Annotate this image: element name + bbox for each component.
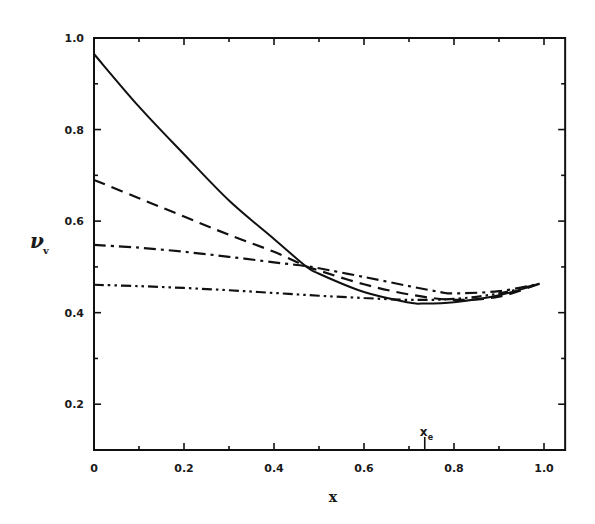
y-tick-label: 0.4: [65, 307, 85, 320]
plot-frame: [94, 38, 565, 450]
y-tick-label: 0.8: [65, 124, 85, 137]
series-solid: [94, 54, 540, 304]
y-tick-labels: 0.20.40.60.81.0: [65, 32, 85, 411]
y-tick-label: 1.0: [65, 32, 85, 45]
xe-label: x: [420, 425, 428, 439]
x-tick-label: 0.8: [444, 462, 464, 475]
line-chart: 00.20.40.60.81.0 0.20.40.60.81.0 xe x ν …: [0, 0, 595, 524]
x-axis-label: x: [329, 489, 338, 505]
xe-subscript: e: [428, 433, 434, 442]
y-tick-label: 0.6: [65, 215, 85, 228]
y-tick-label: 0.2: [65, 398, 85, 411]
data-series: [94, 54, 540, 304]
series-dash-dot: [94, 245, 540, 294]
y-axis-label-subscript: v: [42, 245, 50, 256]
series-dashed: [94, 180, 540, 300]
y-axis-label: ν v: [30, 229, 50, 256]
x-tick-labels: 00.20.40.60.81.0: [90, 462, 554, 475]
x-tick-label: 0.6: [354, 462, 374, 475]
plot-border: [94, 38, 565, 450]
annotations: xe: [420, 425, 434, 450]
x-tick-label: 0.4: [264, 462, 284, 475]
x-tick-label: 0: [90, 462, 98, 475]
x-tick-label: 1.0: [534, 462, 554, 475]
axis-ticks: [94, 38, 565, 450]
y-axis-label-nu: ν: [30, 229, 44, 253]
x-tick-label: 0.2: [174, 462, 194, 475]
